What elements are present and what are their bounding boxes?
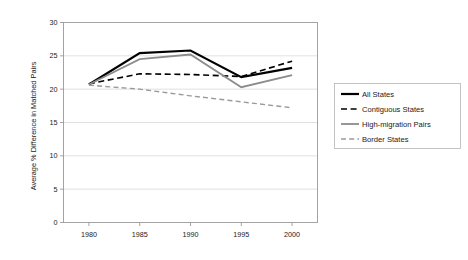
legend-label-3: Border States — [362, 135, 409, 144]
series-line-3 — [89, 85, 292, 108]
y-axis-title-text: Average % Difference in Matched Pairs — [29, 61, 38, 190]
y-axis-title: Average % Difference in Matched Pairs — [29, 61, 38, 190]
x-axis: 19801985199019952000 — [81, 223, 300, 239]
legend-label-1: Contiguous States — [362, 105, 424, 114]
legend-label-0: All States — [362, 90, 394, 99]
x-tick-label: 1990 — [183, 230, 199, 239]
x-tick-label: 1985 — [132, 230, 148, 239]
chart-container: Average % Difference in Matched Pairs 05… — [0, 0, 468, 260]
x-tick-label: 1995 — [233, 230, 249, 239]
y-tick-label: 20 — [50, 85, 58, 94]
y-tick-label: 10 — [50, 151, 58, 160]
line-chart: Average % Difference in Matched Pairs 05… — [0, 0, 468, 260]
y-axis: 051015202530 — [50, 18, 64, 227]
y-tick-label: 15 — [50, 118, 58, 127]
chart-legend: All StatesContiguous StatesHigh-migratio… — [335, 84, 461, 149]
y-tick-label: 5 — [54, 185, 58, 194]
y-tick-label: 25 — [50, 51, 58, 60]
y-tick-label: 30 — [50, 18, 58, 27]
x-tick-label: 2000 — [284, 230, 300, 239]
legend-label-2: High-migration Pairs — [362, 120, 431, 129]
x-tick-label: 1980 — [81, 230, 97, 239]
y-tick-label: 0 — [54, 218, 58, 227]
data-series-layer — [89, 51, 292, 108]
